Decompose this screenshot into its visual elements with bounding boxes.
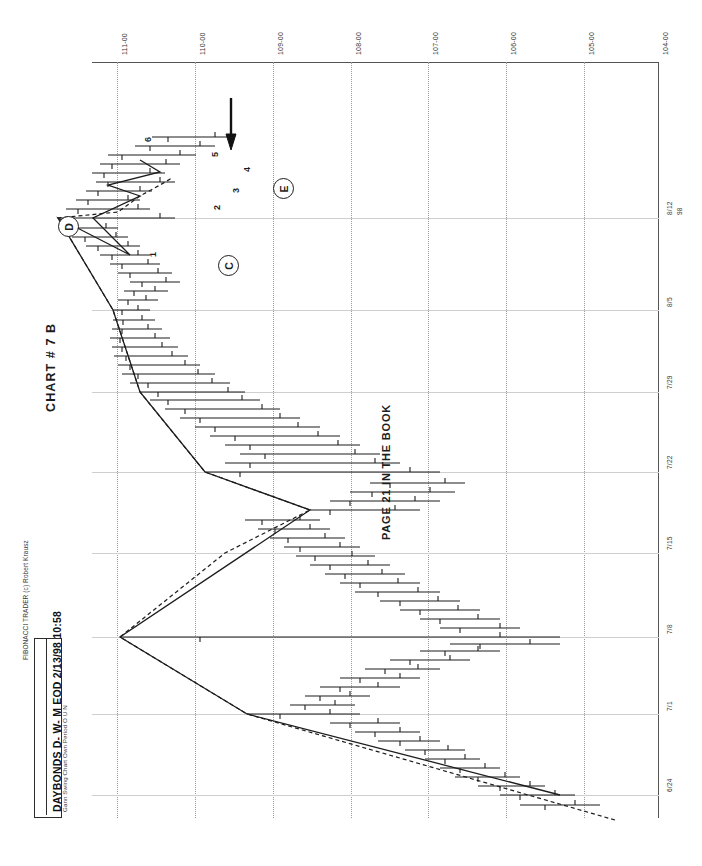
date-gridline (92, 795, 659, 796)
price-tick-label: 108-00 (355, 32, 362, 55)
date-gridline (92, 472, 659, 473)
swing-number-1: 1 (148, 252, 158, 257)
price-tick-label: 111-00 (121, 33, 128, 55)
price-tick-label: 106-00 (510, 32, 517, 55)
price-gridline (117, 62, 118, 818)
date-gridline (92, 714, 659, 715)
software-credit: FIBONACCI TRADER (c) Robert Krausz (22, 540, 29, 660)
swing-marker-c: C (218, 255, 239, 276)
date-tick-label: 8/12 (666, 201, 673, 215)
date-tick-label: 7/15 (666, 536, 673, 550)
date-tick-label: 7/8 (666, 624, 673, 634)
title-box-divider (46, 639, 47, 815)
swing-number-4: 4 (242, 167, 252, 172)
chart-page: FIBONACCI TRADER (c) Robert Krausz DAYBO… (0, 0, 702, 866)
date-tick-label: 7/29 (666, 375, 673, 389)
date-gridline (92, 392, 659, 393)
plot-area (92, 62, 659, 818)
swing-marker-label: E (277, 185, 289, 192)
price-gridline (428, 62, 429, 818)
chart-subtitle: Gann Swing Chart Own Period O U N (61, 705, 68, 812)
date-gridline (92, 553, 659, 554)
price-gridline (351, 62, 352, 818)
swing-marker-d: D (58, 216, 79, 237)
price-tick-label: 109-00 (277, 32, 284, 55)
date-tick-label: 8/5 (666, 297, 673, 307)
date-tick-label: 6/24 (666, 778, 673, 792)
swing-number-3: 3 (231, 188, 241, 193)
chart-label: CHART # 7 B (44, 323, 58, 412)
date-gridline (92, 310, 659, 311)
swing-number-6: 6 (143, 137, 153, 142)
price-gridline (195, 62, 196, 818)
date-gridline (92, 218, 659, 219)
date-axis-year-label: 98 (676, 207, 683, 215)
price-tick-label: 104-00 (662, 32, 669, 55)
date-tick-label: 7/22 (666, 455, 673, 469)
price-gridline (273, 62, 274, 818)
price-tick-label: 110-00 (199, 33, 206, 55)
price-gridline (506, 62, 507, 818)
swing-marker-label: D (63, 223, 75, 231)
price-gridline (584, 62, 585, 818)
swing-number-2: 2 (212, 205, 222, 210)
swing-marker-label: C (223, 262, 235, 270)
date-tick-label: 7/1 (666, 701, 673, 711)
swing-marker-e: E (273, 178, 294, 199)
date-gridline (92, 637, 659, 638)
swing-number-5: 5 (210, 152, 220, 157)
price-tick-label: 107-00 (432, 32, 439, 55)
price-tick-label: 105-00 (588, 32, 595, 55)
